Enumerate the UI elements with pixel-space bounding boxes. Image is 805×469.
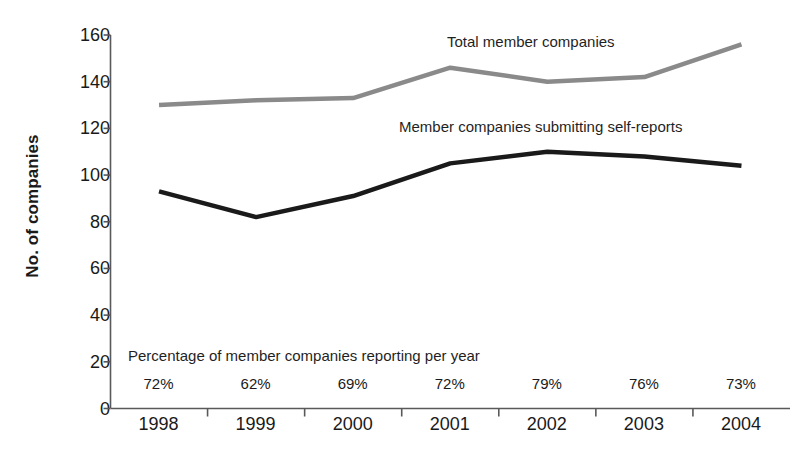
plot-area (0, 0, 805, 469)
percentage-value: 69% (313, 375, 393, 392)
percentage-value: 76% (604, 375, 684, 392)
percentage-caption: Percentage of member companies reporting… (128, 347, 480, 364)
x-tick-label: 2002 (502, 414, 592, 434)
series-label-total-member-companies: Total member companies (447, 33, 615, 50)
x-tick-label: 2003 (599, 414, 689, 434)
x-axis-tick-labels: 1998199920002001200220032004 (110, 414, 800, 444)
percentage-values-row: 72%62%69%72%79%76%73% (110, 375, 800, 397)
x-tick-label: 1998 (114, 414, 204, 434)
percentage-value: 72% (119, 375, 199, 392)
x-tick-label: 2000 (308, 414, 398, 434)
y-axis-ticks (104, 35, 111, 409)
chart-figure: No. of companies 020406080100120140160 T… (0, 0, 805, 469)
series-label-member-companies-submitting-self-reports: Member companies submitting self-reports (399, 118, 682, 135)
x-tick-label: 2004 (696, 414, 786, 434)
x-tick-label: 2001 (405, 414, 495, 434)
percentage-value: 79% (507, 375, 587, 392)
percentage-value: 62% (216, 375, 296, 392)
percentage-value: 73% (701, 375, 781, 392)
series-line-member-companies-submitting-self-reports (159, 152, 741, 217)
percentage-value: 72% (410, 375, 490, 392)
series-line-total-member-companies (159, 44, 741, 105)
x-tick-label: 1999 (211, 414, 301, 434)
